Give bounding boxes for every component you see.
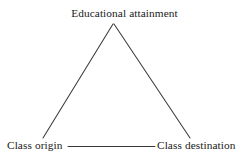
node-label-educational-attainment: Educational attainment	[0, 7, 249, 20]
node-label-class-origin: Class origin	[7, 139, 63, 152]
triangle-edges-svg	[0, 0, 249, 159]
triangle-diagram: Educational attainment Class origin Clas…	[0, 0, 249, 159]
edge-education-to-destination	[114, 24, 190, 138]
edge-origin-to-education	[43, 24, 113, 138]
node-label-class-destination: Class destination	[157, 139, 236, 152]
